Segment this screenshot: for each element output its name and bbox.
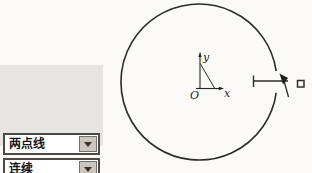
arrow-cursor-icon — [280, 74, 289, 85]
combo-continuity-button[interactable] — [79, 161, 97, 173]
diagonal-segment — [200, 64, 214, 89]
chevron-down-icon — [84, 167, 92, 172]
tool-options-panel: 两点线 连续 非正交 — [0, 65, 103, 146]
combo-line-type-button[interactable] — [79, 136, 97, 152]
combo-line-type-value: 两点线 — [9, 136, 76, 152]
chevron-down-icon — [84, 142, 92, 147]
origin-label: O — [190, 89, 199, 102]
pick-box-icon — [298, 81, 305, 88]
x-axis-label: x — [224, 87, 231, 100]
cad-screenshot: y x O 两点线 连续 非正交 — [0, 0, 312, 173]
combo-continuity-value: 连续 — [9, 161, 76, 173]
combo-line-type[interactable]: 两点线 — [3, 133, 100, 155]
combo-continuity[interactable]: 连续 — [3, 158, 100, 173]
y-axis-arrow-icon — [198, 52, 201, 58]
y-axis-label: y — [202, 51, 210, 64]
